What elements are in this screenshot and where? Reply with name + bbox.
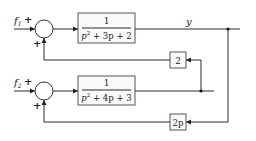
branch-point-loop2 — [199, 89, 202, 92]
arrow-icon — [73, 89, 78, 94]
block-diagram: f1 + 1 p2 + 3p + 2 y 2 + f2 + 1 p2 + 4p … — [0, 0, 256, 141]
input-f2-sign: + — [24, 76, 32, 87]
output-y-label: y — [185, 16, 192, 27]
sum1-feedback-sign: + — [33, 38, 41, 49]
arrow-icon — [30, 89, 35, 94]
arrow-icon — [73, 27, 78, 32]
arrow-icon — [42, 38, 47, 43]
input-f1-sign: + — [24, 14, 32, 25]
block1-numerator: 1 — [104, 16, 110, 26]
arrow-icon — [30, 27, 35, 32]
input-f2-label: f2 — [13, 77, 22, 89]
summing-junction-2 — [35, 82, 53, 100]
block2-numerator: 1 — [104, 78, 110, 88]
summing-junction-1 — [35, 20, 53, 38]
sum2-feedback-sign: + — [33, 100, 41, 111]
feedback-gain-2: 2 — [175, 56, 181, 66]
arrow-icon — [186, 58, 191, 63]
feedback-gain-2p: 2p — [173, 118, 184, 128]
arrow-icon — [42, 100, 47, 105]
input-f1-label: f1 — [13, 15, 22, 27]
arrow-icon — [186, 120, 191, 125]
